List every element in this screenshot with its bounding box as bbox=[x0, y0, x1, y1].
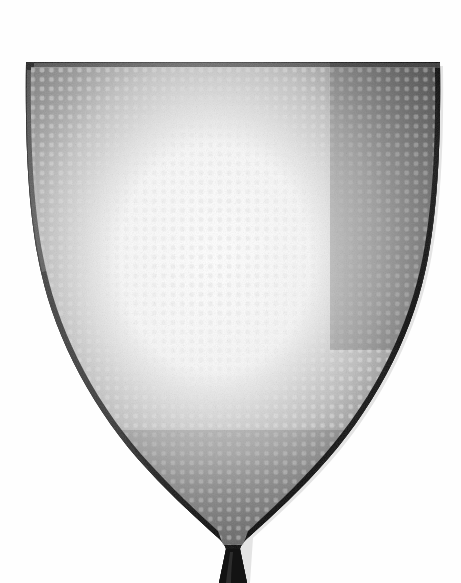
photo-canvas: Black perforated plastic fly swatter hea… bbox=[0, 0, 461, 583]
fly-swatter-photo bbox=[0, 0, 461, 583]
